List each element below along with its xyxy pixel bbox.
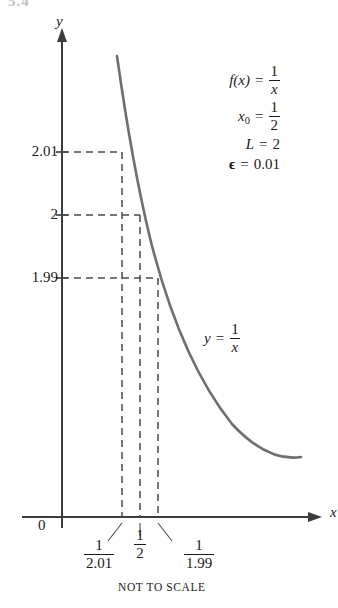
x-axis: [22, 512, 322, 522]
origin-label: 0: [38, 518, 46, 533]
subscript-zero: 0: [245, 115, 250, 126]
epsilon-symbol: ϵ: [229, 156, 235, 173]
numerator: 1: [93, 538, 105, 554]
curve-equation-label: y = 1 x: [204, 322, 241, 355]
formula-block: f(x) = 1 x x0 = 1 2 L = 2 ϵ = 0.01: [152, 64, 280, 176]
x-tick-label-upper: 1 1.99: [162, 538, 236, 571]
y-tick-label-upper: 2.01: [0, 144, 58, 159]
equals-sign: =: [255, 108, 263, 125]
formula-lhs: x0: [238, 108, 250, 126]
formula-row-limit: L = 2: [152, 136, 280, 153]
equals-sign: =: [216, 330, 224, 347]
denominator: 2: [269, 116, 281, 133]
formula-lhs: f(x): [229, 72, 250, 89]
limit-epsilon-delta-figure: 5.4 y x 2.01 2 1.99 0 1 2.01 1 2 1 1.99 …: [0, 0, 338, 608]
numerator: 1: [193, 538, 205, 554]
denominator: 2.01: [84, 554, 114, 571]
x-axis-label: x: [330, 505, 337, 520]
formula-row-x0: x0 = 1 2: [152, 100, 280, 133]
fraction-1-over-x: 1 x: [229, 322, 241, 355]
denominator: x: [230, 338, 241, 355]
numerator: 1: [269, 64, 281, 80]
y-tick-label-center: 2: [0, 207, 58, 222]
numerator: 1: [134, 528, 146, 544]
delta-guide-lines: [122, 152, 158, 517]
equals-sign: =: [255, 72, 263, 89]
equals-sign: =: [259, 136, 267, 153]
numerator: 1: [269, 100, 281, 116]
y-tick-label-lower: 1.99: [0, 270, 58, 285]
y-axis-label: y: [56, 14, 63, 29]
numerator: 1: [229, 322, 241, 338]
fraction-1-over-2p01: 1 2.01: [84, 538, 114, 571]
formula-row-function: f(x) = 1 x: [152, 64, 280, 97]
denominator: 1.99: [184, 554, 214, 571]
figure-number-fragment: 5.4: [8, 0, 30, 9]
fraction-1-over-1p99: 1 1.99: [184, 538, 214, 571]
figure-caption: NOT TO SCALE: [118, 582, 206, 594]
fraction-1-over-2: 1 2: [269, 100, 281, 133]
curve-label-lhs: y: [204, 330, 211, 347]
variable-x: x: [238, 108, 245, 124]
denominator: x: [269, 80, 280, 97]
fraction-1-over-2: 1 2: [134, 528, 146, 561]
equals-sign: =: [240, 156, 248, 173]
denominator: 2: [134, 544, 146, 561]
formula-lhs: L: [246, 136, 254, 153]
formula-value: 2: [273, 136, 281, 153]
formula-row-epsilon: ϵ = 0.01: [152, 156, 280, 173]
fraction-1-over-x: 1 x: [269, 64, 281, 97]
formula-value: 0.01: [254, 156, 280, 173]
x-tick-label-center: 1 2: [116, 528, 164, 561]
